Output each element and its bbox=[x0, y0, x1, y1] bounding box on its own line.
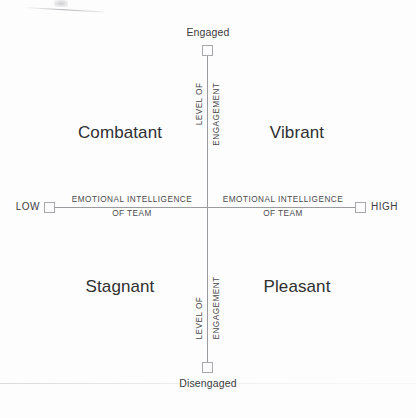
horizontal-axis-caption-left-line1: EMOTIONAL INTELLIGENCE bbox=[61, 193, 203, 207]
axis-pole-label-engaged: Engaged bbox=[0, 26, 416, 38]
axis-endpoint-square-bottom bbox=[202, 362, 213, 373]
scan-artifact-diagonal-line bbox=[24, 7, 104, 12]
axis-pole-label-low: LOW bbox=[0, 201, 40, 212]
vertical-axis-line bbox=[207, 50, 208, 368]
quadrant-label-bottom-left: Stagnant bbox=[45, 277, 195, 297]
horizontal-axis-caption-left: EMOTIONAL INTELLIGENCE OF TEAM bbox=[61, 193, 203, 221]
axis-endpoint-square-top bbox=[202, 45, 213, 56]
axis-pole-label-disengaged: Disengaged bbox=[0, 377, 416, 389]
quadrant-label-top-left: Combatant bbox=[45, 123, 195, 143]
horizontal-axis-caption-right-line1: EMOTIONAL INTELLIGENCE bbox=[212, 193, 354, 207]
horizontal-axis-caption-right: EMOTIONAL INTELLIGENCE OF TEAM bbox=[212, 193, 354, 221]
vertical-axis-caption-upper-line2: ENGAGEMENT bbox=[210, 83, 223, 179]
quadrant-label-top-right: Vibrant bbox=[222, 123, 372, 143]
axis-endpoint-square-right bbox=[355, 202, 366, 213]
horizontal-axis-caption-right-line2: OF TEAM bbox=[212, 207, 354, 221]
horizontal-axis-caption-left-line2: OF TEAM bbox=[61, 207, 203, 221]
scan-artifact-smudge bbox=[54, 0, 68, 7]
quadrant-label-bottom-right: Pleasant bbox=[222, 277, 372, 297]
vertical-axis-caption-lower-line2: ENGAGEMENT bbox=[210, 244, 223, 340]
axis-pole-label-high: HIGH bbox=[371, 201, 416, 212]
quadrant-diagram: Engaged Disengaged LOW HIGH EMOTIONAL IN… bbox=[0, 0, 416, 418]
axis-endpoint-square-left bbox=[44, 202, 55, 213]
